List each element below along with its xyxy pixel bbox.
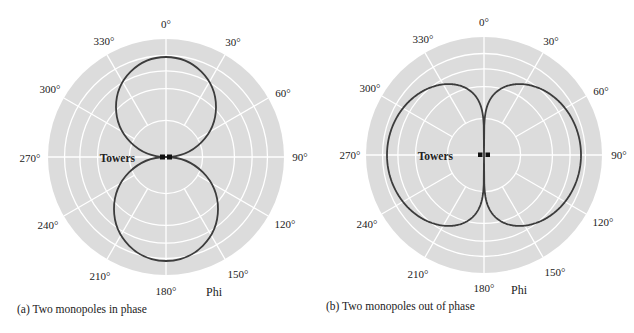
caption: (a) Two monopoles in phase [17,303,147,315]
phi-axis-label: Phi [206,285,222,300]
tower-marker [160,155,165,160]
tower-marker [167,155,172,160]
phi-axis-label: Phi [511,283,527,298]
angle-label-60: 60° [593,85,608,97]
angle-label-60: 60° [275,87,290,99]
panel-b: 0° 30° 60° 90° 120° 150° 180° 210° 240° … [317,0,634,333]
polar-plot-in-phase [0,0,317,333]
angle-label-210: 210° [408,268,429,280]
angle-label-120: 120° [275,218,296,230]
angle-label-180: 180° [474,282,495,294]
panel-a: 0° 30° 60° 90° 120° 150° 180° 210° 240° … [0,0,317,333]
angle-label-240: 240° [357,218,378,230]
angle-label-270: 270° [340,149,361,161]
angle-label-150: 150° [228,268,249,280]
angle-label-30: 30° [543,35,558,47]
angle-label-300: 300° [40,83,61,95]
angle-label-270: 270° [20,152,41,164]
angle-label-30: 30° [225,36,240,48]
towers-label: Towers [100,152,135,164]
caption: (b) Two monopoles out of phase [326,300,475,312]
angle-label-240: 240° [38,219,59,231]
tower-marker [486,153,491,158]
angle-label-330: 330° [94,35,115,47]
angle-label-0: 0° [479,16,489,28]
angle-label-330: 330° [413,33,434,45]
angle-label-90: 90° [292,151,307,163]
angle-label-0: 0° [161,18,171,30]
angle-label-90: 90° [611,149,626,161]
angle-label-180: 180° [156,285,177,297]
angle-label-300: 300° [360,82,381,94]
angle-label-120: 120° [593,216,614,228]
tower-marker [478,153,483,158]
towers-label: Towers [418,150,453,162]
angle-label-150: 150° [545,266,566,278]
angle-label-210: 210° [90,270,111,282]
